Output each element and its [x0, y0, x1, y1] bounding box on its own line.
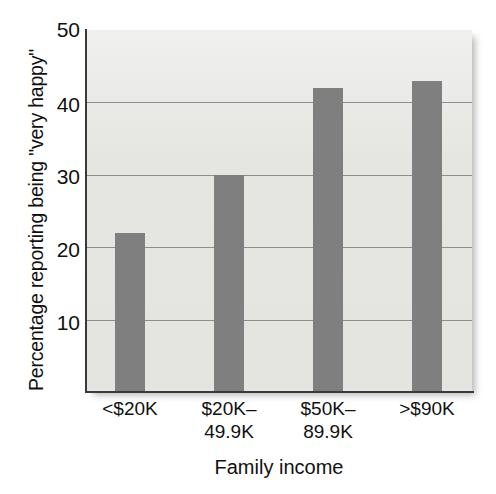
x-tick-label-1-line1: $20K– [202, 398, 257, 419]
x-axis-spine [85, 391, 474, 393]
bar-chart-figure: Percentage reporting being "very happy" … [0, 0, 496, 494]
y-axis-spine [85, 29, 87, 393]
bar-50k-89k [313, 88, 343, 392]
y-tick-label-10: 10 [34, 312, 80, 333]
x-tick-label-0-line1: <$20K [102, 398, 157, 419]
bar-20k-49k [214, 175, 244, 392]
x-tick-label-0: <$20K [75, 397, 185, 420]
bar-gt-90k [412, 81, 442, 392]
x-tick-label-2-line1: $50K– [301, 398, 356, 419]
y-tick-label-20: 20 [34, 239, 80, 260]
y-tick-label-50: 50 [34, 19, 80, 40]
x-tick-label-2: $50K– 89.9K [273, 397, 383, 443]
x-tick-label-3-line1: >$90K [399, 398, 454, 419]
x-axis-tick-labels: <$20K $20K– 49.9K $50K– 89.9K >$90K [86, 397, 472, 457]
x-tick-label-3: >$90K [372, 397, 482, 420]
plot-area [86, 30, 472, 392]
x-axis-title: Family income [86, 456, 472, 479]
y-axis-tick-labels: 50 40 30 20 10 [28, 0, 80, 494]
x-tick-label-2-line2: 89.9K [273, 420, 383, 443]
bar-lt-20k [115, 233, 145, 392]
x-tick-label-1: $20K– 49.9K [174, 397, 284, 443]
y-tick-label-40: 40 [34, 94, 80, 115]
y-tick-label-30: 30 [34, 166, 80, 187]
x-tick-label-1-line2: 49.9K [174, 420, 284, 443]
